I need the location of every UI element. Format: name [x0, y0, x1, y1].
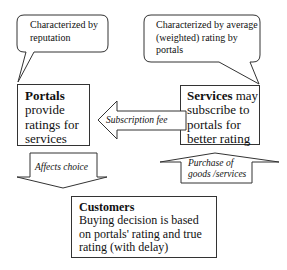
customers-line: Buying decision is based: [79, 214, 202, 227]
left-callout-line: Characterized by: [30, 19, 98, 32]
purchase-label-line: goods /services: [188, 169, 246, 180]
customers-node: Customers Buying decision is based on po…: [79, 201, 202, 255]
subscription-arrow-label: Subscription fee: [106, 115, 167, 126]
purchase-label-line: Purchase of: [188, 158, 246, 169]
portals-line: provide: [25, 103, 79, 117]
services-node: Services may subscribe to portals for be…: [187, 89, 258, 146]
left-callout-text: Characterized by reputation: [30, 19, 98, 44]
services-title: Services: [187, 88, 232, 103]
customers-title: Customers: [79, 200, 134, 214]
services-line: better rating: [187, 132, 258, 146]
right-callout-line: Characterized by average: [156, 19, 258, 32]
portals-title: Portals: [25, 88, 65, 103]
left-callout-line: reputation: [30, 32, 98, 45]
portals-node: Portals provide ratings for services: [25, 89, 79, 146]
purchase-arrow-label: Purchase of goods /services: [188, 158, 246, 181]
affects-choice-label: Affects choice: [35, 162, 88, 173]
portals-line: services: [25, 132, 79, 146]
customers-line: on portals' rating and true: [79, 228, 202, 241]
services-line: portals for: [187, 118, 258, 132]
customers-line: rating (with delay): [79, 241, 202, 254]
services-line: subscribe to: [187, 103, 258, 117]
services-title-rest: may: [232, 88, 258, 103]
right-callout-line: (weighted) rating by: [156, 32, 258, 45]
right-callout-line: portals: [156, 44, 258, 57]
right-callout-text: Characterized by average (weighted) rati…: [156, 19, 258, 57]
portals-line: ratings for: [25, 118, 79, 132]
